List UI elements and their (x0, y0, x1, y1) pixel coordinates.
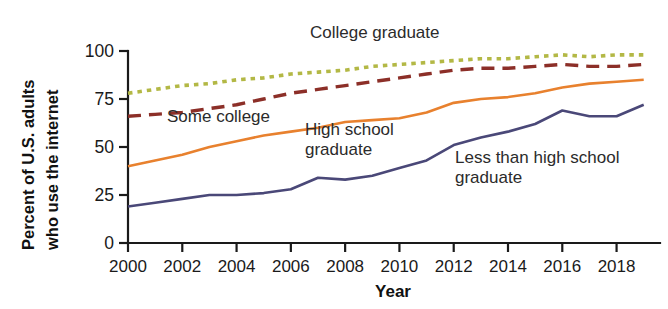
y-tick-label: 50 (95, 137, 115, 157)
y-tick-label: 25 (95, 185, 114, 205)
line-chart: 0255075100 20002002200420062008201020122… (0, 0, 668, 309)
series-label-some-college: Some college (167, 107, 270, 126)
x-tick-label: 2010 (381, 257, 419, 276)
y-axis-title-line2: who use the internet (43, 89, 61, 251)
y-axis-title: Percent of U.S. adults who use the inter… (19, 79, 61, 251)
series-label-less-than-high-school-line1: Less than high school (455, 148, 619, 167)
series-label-college-graduate: College graduate (310, 23, 439, 42)
y-axis-ticks: 0255075100 (85, 41, 128, 253)
x-tick-label: 2000 (109, 257, 147, 276)
series-label-less-than-high-school-line2: graduate (455, 168, 522, 187)
x-tick-label: 2016 (543, 257, 581, 276)
series-label-high-school-graduate-line2: graduate (305, 140, 372, 159)
series-label-high-school-graduate-line1: High school (305, 120, 394, 139)
x-tick-label: 2012 (435, 257, 473, 276)
y-tick-label: 75 (95, 89, 114, 109)
chart-container: 0255075100 20002002200420062008201020122… (0, 0, 668, 309)
x-axis-ticks: 2000200220042006200820102012201420162018 (109, 243, 635, 276)
y-tick-label: 0 (104, 233, 114, 253)
y-axis-title-line1: Percent of U.S. adults (19, 79, 37, 250)
x-tick-label: 2014 (489, 257, 527, 276)
x-tick-label: 2004 (218, 257, 256, 276)
x-tick-label: 2018 (598, 257, 636, 276)
y-tick-label: 100 (85, 41, 114, 61)
x-tick-label: 2002 (163, 257, 201, 276)
x-tick-label: 2008 (326, 257, 364, 276)
x-tick-label: 2006 (272, 257, 310, 276)
x-axis-title: Year (375, 282, 411, 301)
